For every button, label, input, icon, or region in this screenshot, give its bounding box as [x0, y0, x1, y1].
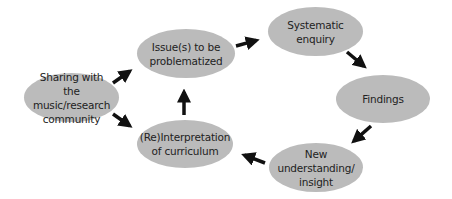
arrow-issues-to-systematic: [236, 40, 256, 46]
arrow-findings-to-new: [354, 126, 371, 141]
arrow-sharing-to-reinterp: [113, 114, 130, 126]
node-new-line-2: understanding/: [277, 161, 354, 175]
node-systematic-line-2: enquiry: [287, 32, 343, 46]
node-findings-line-1: Findings: [362, 92, 404, 106]
node-sharing: Sharing with the music/research communit…: [24, 73, 119, 122]
node-new-understanding: New understanding/ insight: [269, 143, 363, 192]
node-findings: Findings: [336, 75, 430, 123]
research-cycle-diagram: Sharing with the music/research communit…: [0, 0, 452, 199]
node-sharing-line-2: the music/research: [28, 84, 115, 112]
node-issues-line-1: Issue(s) to be: [150, 40, 223, 54]
node-new-line-3: insight: [277, 175, 354, 189]
arrow-new-to-reinterp: [244, 155, 265, 163]
node-issues: Issue(s) to be problematized: [137, 29, 235, 78]
node-issues-line-2: problematized: [150, 54, 223, 68]
node-new-line-1: New: [277, 147, 354, 161]
node-reinterp-line-2: of curriculum: [140, 144, 230, 158]
node-sharing-line-1: Sharing with: [28, 70, 115, 84]
node-reinterpretation: (Re)Interpretation of curriculum: [137, 120, 233, 168]
node-reinterp-line-1: (Re)Interpretation: [140, 130, 230, 144]
arrow-systematic-to-findings: [347, 52, 364, 66]
node-sharing-line-3: community: [28, 112, 115, 126]
node-systematic-line-1: Systematic: [287, 18, 343, 32]
arrow-sharing-to-issues: [113, 71, 130, 83]
node-systematic-enquiry: Systematic enquiry: [268, 7, 363, 56]
